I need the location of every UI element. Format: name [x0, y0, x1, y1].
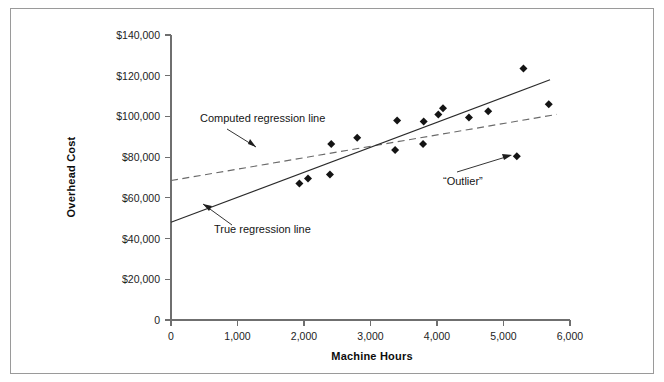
x-tick-label-3000: 3,000 [357, 330, 383, 342]
y-tick-label-40000: $40,000 [122, 233, 160, 245]
annotation-label-outlier: “Outlier” [443, 175, 483, 187]
y-tick-label-0: 0 [154, 314, 160, 326]
annotation-outlier: “Outlier” [443, 154, 512, 187]
x-tick-label-2000: 2,000 [291, 330, 317, 342]
annotation-computed-regression-line: Computed regression line [200, 112, 325, 147]
y-axis-title: Overhead Cost [65, 136, 77, 217]
annotation-arrowhead-computed [248, 139, 256, 147]
true-regression-line [171, 80, 550, 223]
data-point-marker [353, 134, 361, 142]
x-tick-label-4000: 4,000 [424, 330, 450, 342]
annotation-label-true-regression-line: True regression line [214, 223, 311, 235]
y-tick-label-100000: $100,000 [116, 110, 160, 122]
annotation-arrowhead-outlier [502, 154, 512, 160]
x-tick-label-0: 0 [168, 330, 174, 342]
y-tick-label-120000: $120,000 [116, 70, 160, 82]
x-tick-label-5000: 5,000 [490, 330, 516, 342]
annotation-leader-outlier [457, 156, 509, 172]
data-point-marker [419, 140, 427, 148]
data-point-marker [519, 65, 527, 73]
y-axis-ticks [165, 35, 171, 320]
figure-root: $140,000 $120,000 $100,000 $80,000 $60,0… [0, 0, 664, 382]
data-point-marker [393, 117, 401, 125]
data-point-marker [434, 110, 442, 118]
y-tick-label-80000: $80,000 [122, 151, 160, 163]
data-point-marker [420, 118, 428, 126]
data-point-marker [326, 170, 334, 178]
data-point-marker [484, 107, 492, 115]
data-points-group [295, 65, 552, 188]
y-tick-label-60000: $60,000 [122, 192, 160, 204]
data-point-marker [513, 152, 521, 160]
x-axis-ticks [171, 320, 570, 326]
annotation-true-regression-line: True regression line [203, 204, 311, 235]
y-tick-label-140000: $140,000 [116, 29, 160, 41]
y-axis-tick-labels: $140,000 $120,000 $100,000 $80,000 $60,0… [116, 29, 160, 326]
data-point-marker [391, 146, 399, 154]
data-point-marker [295, 180, 303, 188]
x-tick-label-6000: 6,000 [557, 330, 583, 342]
data-point-marker [327, 140, 335, 148]
data-point-marker [439, 104, 447, 112]
scatter-chart: $140,000 $120,000 $100,000 $80,000 $60,0… [0, 0, 664, 382]
y-tick-label-20000: $20,000 [122, 273, 160, 285]
x-axis-tick-labels: 0 1,000 2,000 3,000 4,000 5,000 6,000 [168, 330, 583, 342]
data-point-marker [545, 100, 553, 108]
x-axis-title: Machine Hours [331, 350, 412, 362]
x-tick-label-1000: 1,000 [224, 330, 250, 342]
data-point-marker [465, 113, 473, 121]
data-point-marker [304, 175, 312, 183]
computed-regression-line [171, 114, 557, 180]
annotation-label-computed-regression-line: Computed regression line [200, 112, 325, 124]
